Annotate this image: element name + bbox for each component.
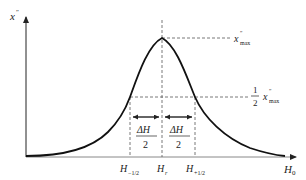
svg-text:−1/2: −1/2 — [128, 170, 139, 176]
tick-label-h-plus-half: H +1/2 — [185, 163, 205, 176]
svg-text:+1/2: +1/2 — [194, 170, 205, 176]
svg-text:x: x — [262, 91, 268, 102]
svg-text:″: ″ — [16, 8, 19, 16]
svg-text:2: 2 — [143, 139, 148, 150]
svg-text:H: H — [119, 163, 128, 174]
resonance-curve-diagram: x ″ H 0 ΔH 2 ΔH 2 x ″ max 1 2 x ″ — [0, 0, 306, 180]
svg-text:r: r — [165, 170, 168, 176]
svg-text:x: x — [233, 33, 239, 44]
svg-text:2: 2 — [176, 139, 181, 150]
delta-left-label: ΔH 2 — [136, 124, 157, 150]
svg-text:ΔH: ΔH — [136, 124, 151, 135]
svg-text:max: max — [269, 98, 279, 104]
svg-text:H: H — [156, 163, 165, 174]
svg-text:″: ″ — [240, 30, 243, 36]
y-axis-label: x ″ — [9, 8, 19, 22]
svg-text:ΔH: ΔH — [169, 124, 184, 135]
svg-text:1: 1 — [253, 85, 258, 95]
tick-label-h-minus-half: H −1/2 — [119, 163, 139, 176]
svg-text:″: ″ — [269, 88, 272, 94]
svg-text:2: 2 — [253, 98, 258, 108]
svg-text:max: max — [240, 40, 250, 46]
half-max-label: 1 2 x ″ max — [251, 85, 279, 108]
svg-text:H: H — [185, 163, 194, 174]
svg-text:x: x — [9, 10, 15, 22]
tick-label-hr: H r — [156, 163, 168, 176]
delta-right-label: ΔH 2 — [169, 124, 190, 150]
x-axis-label: H 0 — [283, 163, 296, 177]
svg-text:0: 0 — [292, 169, 296, 177]
max-label: x ″ max — [233, 30, 250, 46]
